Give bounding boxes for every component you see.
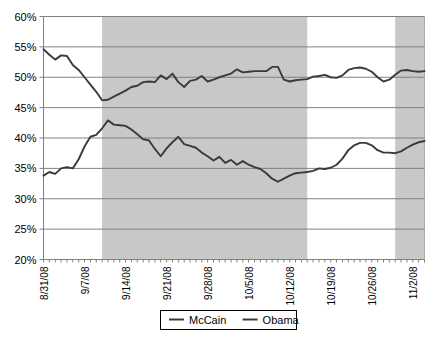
y-tick-label: 40% [14,132,36,144]
x-tick-label: 8/31/08 [39,266,50,300]
legend-label-mccain: McCain [189,314,226,326]
y-tick-labels: 60%55%50%45%40%35%30%25%20% [14,11,36,266]
x-tick-label: 9/21/08 [162,266,173,300]
x-tick-label: 10/19/08 [326,266,337,305]
y-tick-label: 50% [14,71,36,83]
y-tick-label: 35% [14,162,36,174]
y-tick-label: 25% [14,223,36,235]
y-tick-label: 55% [14,41,36,53]
poll-line-chart: 60%55%50%45%40%35%30%25%20% 8/31/089/7/0… [0,0,437,344]
chart-canvas: 60%55%50%45%40%35%30%25%20% 8/31/089/7/0… [0,0,437,344]
x-tick-label: 10/26/08 [367,266,378,305]
y-tick-label: 45% [14,102,36,114]
x-tick-label: 11/2/08 [408,266,419,299]
x-tick-label: 10/12/08 [285,266,296,305]
y-tick-label: 30% [14,193,36,205]
chart-legend: McCainObama [161,311,300,330]
x-tick-label: 9/28/08 [203,266,214,300]
x-tick-label: 9/14/08 [121,266,132,300]
x-tick-label: 9/7/08 [80,266,91,294]
y-tick-label: 60% [14,11,36,23]
y-tick-label: 20% [14,254,36,266]
x-tick-label: 10/5/08 [244,266,255,300]
x-axis [44,260,425,263]
x-tick-labels: 8/31/089/7/089/14/089/21/089/28/0810/5/0… [39,266,419,305]
legend-label-obama: Obama [263,314,300,326]
